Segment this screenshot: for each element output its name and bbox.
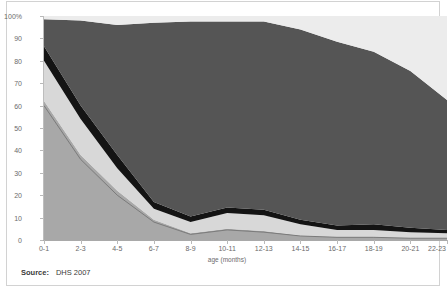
x-axis-tick-label: 12-13 [255, 245, 273, 252]
y-axis: 100%9080706050403020100 [7, 2, 44, 254]
x-axis-tick-label: 14-15 [292, 245, 310, 252]
x-axis-tick-label: 20-21 [401, 245, 419, 252]
x-axis-tick-label: 6-7 [149, 245, 159, 252]
x-axis-tick-label: 16-17 [328, 245, 346, 252]
source-label: Source: [21, 268, 49, 277]
x-axis-tick-label: 8-9 [185, 245, 195, 252]
x-axis-tick-label: 0-1 [39, 245, 49, 252]
x-axis-tick-mark [300, 240, 301, 244]
y-axis-tick-label: 70 [14, 80, 22, 87]
y-axis-tick-label: 10 [14, 214, 22, 221]
y-axis-tick-label: 90 [14, 35, 22, 42]
x-axis-tick-label: 10-11 [218, 245, 235, 252]
x-axis-tick-label: 2-3 [76, 245, 86, 252]
x-axis-tick-mark [154, 240, 155, 244]
y-axis-tick-label: 0 [18, 237, 22, 244]
x-axis-tick-mark [81, 240, 82, 244]
y-axis-tick-label: 60 [14, 102, 22, 109]
source-note: Source:DHS 2007 [21, 268, 91, 277]
y-axis-tick-label: 30 [14, 169, 22, 176]
x-axis-tick-label: 22-23 [428, 245, 446, 252]
x-axis-tick-mark [44, 240, 45, 244]
y-axis-tick-label: 20 [14, 192, 22, 199]
x-axis-tick-mark [264, 240, 265, 244]
y-axis-tick-label: 100% [4, 13, 22, 20]
stacked-area-svg [44, 16, 447, 240]
source-value: DHS 2007 [49, 268, 91, 277]
x-axis-tick-mark [410, 240, 411, 244]
plot-area [44, 16, 447, 240]
y-axis-tick-label: 50 [14, 125, 22, 132]
x-axis-tick-label: 18-19 [365, 245, 383, 252]
chart-frame: 100%9080706050403020100 age (months) Sou… [6, 1, 440, 286]
x-axis-label: age (months) [7, 256, 447, 263]
chart-title [41, 0, 341, 9]
y-axis-tick-label: 40 [14, 147, 22, 154]
y-axis-tick-label: 80 [14, 57, 22, 64]
x-axis-tick-mark [227, 240, 228, 244]
x-axis-tick-mark [337, 240, 338, 244]
x-axis-tick-label: 4-5 [112, 245, 122, 252]
x-axis-tick-mark [191, 240, 192, 244]
x-axis-tick-mark [374, 240, 375, 244]
x-axis-line [43, 240, 447, 241]
x-axis-tick-mark [117, 240, 118, 244]
